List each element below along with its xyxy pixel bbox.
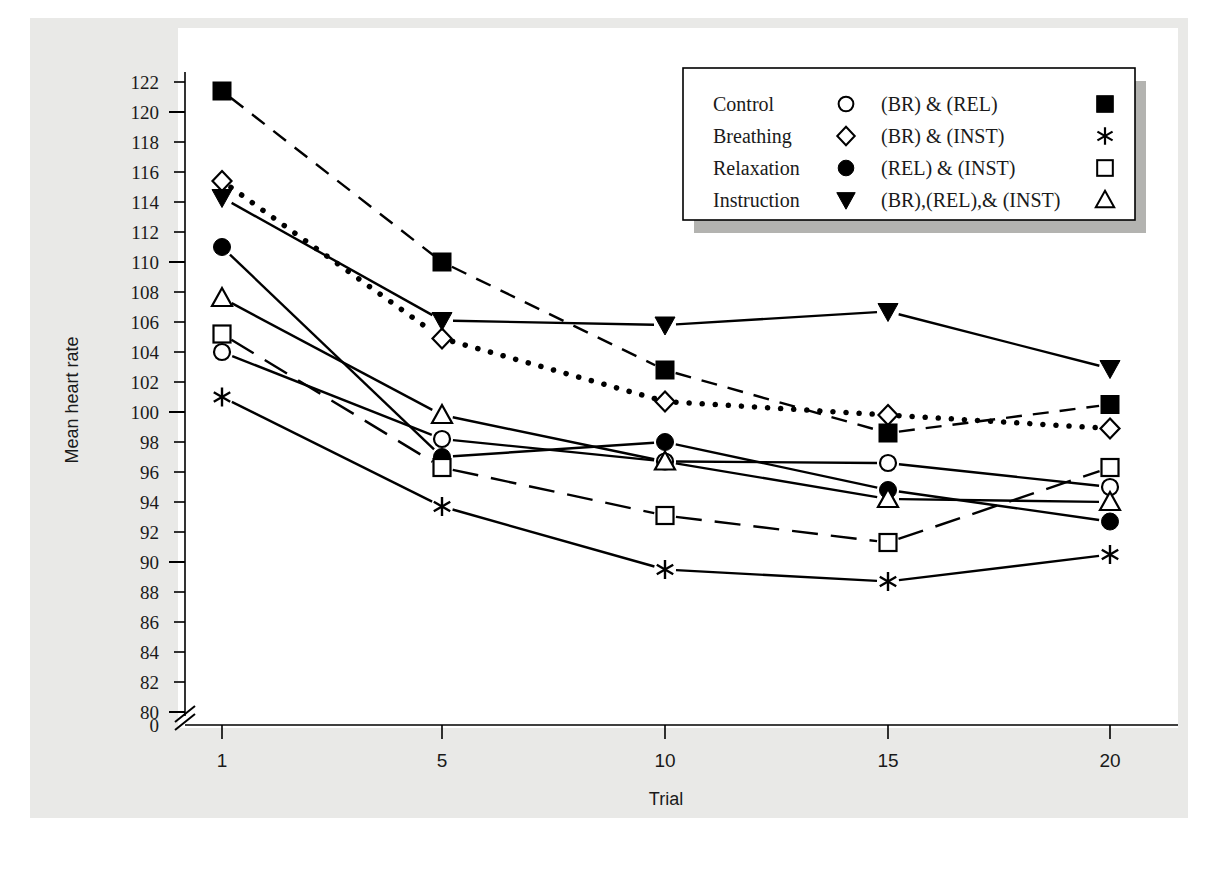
series-segment xyxy=(676,402,877,414)
marker-asterisk xyxy=(657,560,673,579)
marker-open-triangle-up xyxy=(432,405,452,423)
series-segment xyxy=(453,470,654,513)
x-tick-label: 5 xyxy=(437,750,448,771)
series-segment xyxy=(453,321,654,325)
marker-filled-square xyxy=(1097,96,1114,113)
y-tick-label: 96 xyxy=(140,462,159,483)
marker-open-square xyxy=(880,534,897,551)
y-tick-label: 84 xyxy=(140,642,160,663)
series-segment xyxy=(453,509,655,566)
x-tick-label: 10 xyxy=(654,750,675,771)
legend-label-right: (BR) & (REL) xyxy=(881,93,998,116)
series-segment xyxy=(452,267,655,365)
series-segment xyxy=(232,203,433,315)
marker-filled-circle xyxy=(838,160,854,176)
marker-open-triangle-up xyxy=(212,288,232,306)
y-tick-label: 102 xyxy=(131,372,160,393)
marker-open-square xyxy=(1097,160,1113,176)
y-tick-label: 100 xyxy=(131,402,160,423)
line-chart: 1221201181161141121101081061041021009896… xyxy=(0,0,1214,878)
series-segment xyxy=(230,255,434,450)
marker-open-triangle-up xyxy=(1100,492,1120,510)
legend-label-left: Control xyxy=(713,93,775,115)
x-tick-label: 15 xyxy=(877,750,898,771)
marker-open-circle xyxy=(839,97,854,112)
marker-open-square xyxy=(214,326,231,343)
series-segment xyxy=(899,492,1099,520)
y-tick-label: 116 xyxy=(131,162,159,183)
x-tick-label: 20 xyxy=(1099,750,1120,771)
series-segment xyxy=(232,303,433,410)
y-tick-label: 110 xyxy=(131,252,159,273)
series-segment xyxy=(232,402,432,502)
x-axis-title: Trial xyxy=(649,789,683,809)
y-tick-label: 118 xyxy=(131,132,159,153)
marker-open-circle xyxy=(434,431,450,447)
marker-filled-square xyxy=(433,253,451,271)
legend-label-left: Relaxation xyxy=(713,157,800,179)
y-tick-label: 82 xyxy=(140,672,159,693)
marker-open-square xyxy=(657,507,674,524)
break-slash-2 xyxy=(175,714,195,730)
y-tick-label: 94 xyxy=(140,492,160,513)
series-segment xyxy=(453,443,654,457)
marker-filled-triangle-down xyxy=(212,190,232,208)
y-tick-label: 86 xyxy=(140,612,159,633)
marker-filled-triangle-down xyxy=(1100,361,1120,379)
y-tick-label: 122 xyxy=(131,72,160,93)
marker-open-square xyxy=(1102,459,1119,476)
legend-label-right: (BR),(REL),& (INST) xyxy=(881,189,1060,212)
legend: Control(BR) & (REL)Breathing(BR) & (INST… xyxy=(683,68,1146,233)
y-tick-label: 108 xyxy=(131,282,160,303)
marker-open-circle xyxy=(880,455,896,471)
series-segment xyxy=(676,462,877,463)
marker-open-diamond xyxy=(656,392,675,412)
legend-label-right: (REL) & (INST) xyxy=(881,157,1015,180)
legend-label-left: Instruction xyxy=(713,189,800,211)
marker-filled-square xyxy=(1101,396,1119,414)
series-segment xyxy=(676,570,877,581)
marker-filled-triangle-down xyxy=(878,304,898,322)
series-segment xyxy=(676,517,877,541)
marker-filled-triangle-down xyxy=(432,313,452,331)
y-tick-label: 0 xyxy=(150,715,160,736)
y-tick-label: 114 xyxy=(131,192,159,213)
y-axis-ticks: 1221201181161141121101081061041021009896… xyxy=(131,72,186,736)
marker-open-square xyxy=(434,459,451,476)
marker-asterisk xyxy=(434,497,450,516)
marker-filled-circle xyxy=(214,239,231,256)
figure-root: 1221201181161141121101081061041021009896… xyxy=(0,0,1214,878)
series-segment xyxy=(899,499,1099,502)
marker-filled-square xyxy=(656,361,674,379)
marker-asterisk xyxy=(214,388,230,407)
marker-asterisk xyxy=(880,572,896,591)
marker-open-diamond xyxy=(879,405,898,425)
legend-row[interactable]: Instruction(BR),(REL),& (INST) xyxy=(713,189,1114,212)
y-tick-label: 112 xyxy=(131,222,159,243)
series-segment xyxy=(899,556,1099,580)
series-segment xyxy=(232,356,432,435)
series-segment xyxy=(899,314,1100,366)
y-tick-label: 104 xyxy=(131,342,160,363)
y-tick-label: 92 xyxy=(140,522,159,543)
y-tick-label: 120 xyxy=(131,102,160,123)
legend-label-left: Breathing xyxy=(713,125,792,148)
series-segment xyxy=(676,373,878,430)
marker-filled-square xyxy=(213,82,231,100)
y-tick-label: 106 xyxy=(131,312,160,333)
marker-filled-square xyxy=(879,424,897,442)
series-segment xyxy=(231,340,432,462)
legend-label-right: (BR) & (INST) xyxy=(881,125,1004,148)
series-segment xyxy=(231,98,434,255)
y-tick-label: 90 xyxy=(140,552,159,573)
marker-open-circle xyxy=(214,344,230,360)
series-2 xyxy=(214,239,1119,531)
marker-filled-circle xyxy=(657,434,674,451)
marker-filled-circle xyxy=(1102,513,1119,530)
series-segment xyxy=(676,312,877,324)
marker-filled-triangle-down xyxy=(655,317,675,335)
series-segment xyxy=(899,416,1099,428)
x-axis-ticks: 15101520 xyxy=(217,725,1121,771)
series-5 xyxy=(214,388,1118,592)
y-axis-title: Mean heart rate xyxy=(62,336,82,463)
